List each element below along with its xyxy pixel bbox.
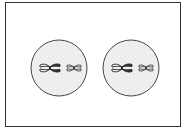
right-cell bbox=[103, 40, 159, 96]
cells-diagram bbox=[0, 0, 188, 134]
left-cell bbox=[31, 40, 87, 96]
